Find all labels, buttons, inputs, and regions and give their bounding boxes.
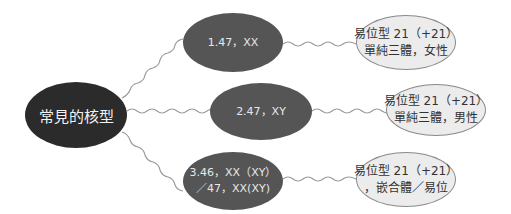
description-line2: ，嵌合體／易位 bbox=[354, 180, 458, 197]
connector-root-node1 bbox=[122, 39, 183, 98]
description-line2: 單純三體，男性 bbox=[384, 110, 488, 127]
description-node-3: 易位型 21（+21） ，嵌合體／易位 bbox=[356, 152, 456, 207]
description-line2: 單純三體，女性 bbox=[354, 43, 458, 60]
description-line1: 易位型 21（+21） bbox=[384, 93, 488, 110]
description-node-1: 易位型 21（+21） 單純三體，女性 bbox=[356, 15, 456, 70]
karyotype-node-2: 2.47，XY bbox=[210, 83, 312, 140]
connector-node3-leaf3 bbox=[283, 177, 356, 181]
description-line1: 易位型 21（+21） bbox=[354, 26, 458, 43]
karyotype-label-line2: ／47，XX(XY) bbox=[190, 181, 277, 197]
connector-root-node2 bbox=[127, 109, 220, 113]
root-label: 常見的核型 bbox=[39, 105, 114, 126]
root-node: 常見的核型 bbox=[25, 82, 127, 148]
karyotype-label: 2.47，XY bbox=[236, 104, 286, 120]
karyotype-label: 1.47，XX bbox=[208, 35, 259, 51]
karyotype-label-line1: 3.46，XX（XY） bbox=[190, 165, 277, 181]
description-line1: 易位型 21（+21） bbox=[354, 163, 458, 180]
description-node-2: 易位型 21（+21） 單純三體，男性 bbox=[386, 84, 486, 136]
connector-root-node3 bbox=[122, 132, 183, 191]
karyotype-node-3: 3.46，XX（XY） ／47，XX(XY) bbox=[183, 152, 283, 210]
connector-node1-leaf1 bbox=[283, 42, 356, 46]
karyotype-node-1: 1.47，XX bbox=[183, 13, 283, 72]
